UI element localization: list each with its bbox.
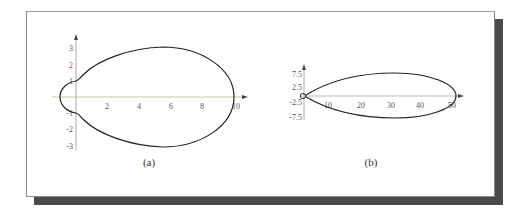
tick-label: 7.5 bbox=[292, 70, 302, 79]
tick-label: 2 bbox=[69, 61, 73, 70]
x-axis-arrow-icon bbox=[458, 94, 464, 98]
tick-label: 3 bbox=[69, 44, 73, 53]
tick-label: 30 bbox=[387, 101, 395, 110]
x-axis-arrow-icon bbox=[242, 95, 248, 99]
tick-label: -2 bbox=[66, 125, 73, 134]
tick-label: -2.5 bbox=[289, 98, 302, 107]
x-ticks-b: 10 20 30 40 50 bbox=[324, 101, 456, 110]
tick-label: 20 bbox=[357, 101, 365, 110]
tick-label: 2 bbox=[105, 102, 109, 111]
tick-label: 50 bbox=[448, 101, 456, 110]
y-axis-arrow-icon bbox=[302, 64, 306, 70]
panel-b: 10 20 30 40 50 7.5 2.5 -2.5 -7.5 (b) bbox=[289, 64, 464, 169]
tick-label: 4 bbox=[137, 102, 141, 111]
y-axis-arrow-icon bbox=[74, 34, 78, 40]
tick-label: -7.5 bbox=[289, 113, 302, 122]
tick-label: -3 bbox=[66, 142, 73, 151]
caption-b: (b) bbox=[365, 156, 378, 169]
panel-a: 2 4 6 8 10 3 2 1 -1 -2 -3 (a) bbox=[52, 34, 248, 169]
tick-label: 6 bbox=[169, 102, 173, 111]
tick-label: 2.5 bbox=[292, 83, 302, 92]
caption-a: (a) bbox=[143, 156, 156, 169]
x-ticks-a: 2 4 6 8 10 bbox=[105, 102, 240, 111]
figure-canvas: 2 4 6 8 10 3 2 1 -1 -2 -3 (a) 10 20 30 4… bbox=[0, 0, 529, 215]
tick-label: 40 bbox=[416, 101, 424, 110]
tick-label: 8 bbox=[200, 102, 204, 111]
